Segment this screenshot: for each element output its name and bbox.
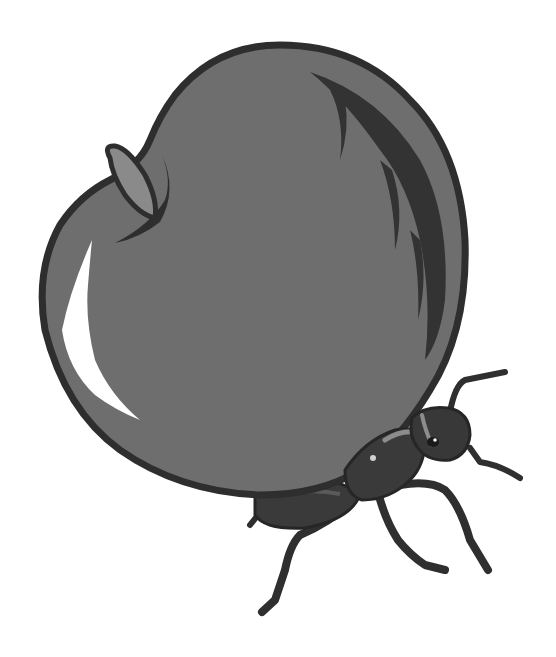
ant-eye-glint bbox=[433, 438, 437, 442]
ant-joint-highlight bbox=[370, 455, 376, 461]
ant-eye bbox=[427, 437, 439, 447]
illustration-canvas: Ant carrying an apple bbox=[0, 0, 556, 657]
ant-head bbox=[411, 407, 470, 460]
ant-carrying-apple-illustration bbox=[0, 0, 556, 657]
